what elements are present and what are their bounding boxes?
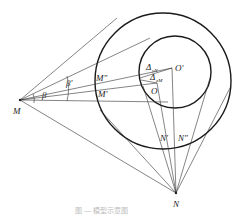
label-M-double-prime: M" (95, 73, 107, 83)
point-N (175, 192, 177, 194)
label-M-prime: M' (97, 89, 108, 99)
geometry-diagram: M N O O' M' M" N' N" β β' Δ yN Δ xM 图 — … (0, 0, 243, 215)
ray-M-horizontal (20, 100, 168, 102)
ray-M-inner-tangent-top (20, 38, 150, 100)
ray-M-N (20, 100, 176, 193)
outer-circle (95, 13, 231, 149)
label-N: N (172, 199, 180, 209)
label-N-double-prime: N" (177, 133, 188, 143)
svg-text:Δ: Δ (149, 72, 155, 82)
label-O: O (151, 86, 158, 96)
label-M: M (12, 106, 21, 116)
figure-caption: 图 — 模型示意图 (75, 206, 128, 215)
point-M (19, 99, 21, 101)
svg-text:xM: xM (155, 78, 163, 83)
svg-text:Δ: Δ (145, 62, 151, 72)
label-delta-xM: Δ xM (149, 72, 163, 83)
label-beta: β (41, 90, 47, 100)
label-O-prime: O' (175, 63, 184, 73)
rays-from-N (100, 68, 231, 193)
label-N-prime: N' (159, 133, 169, 143)
ray-N-outer-tangent-left (100, 110, 176, 193)
label-beta-prime: β' (65, 78, 73, 88)
